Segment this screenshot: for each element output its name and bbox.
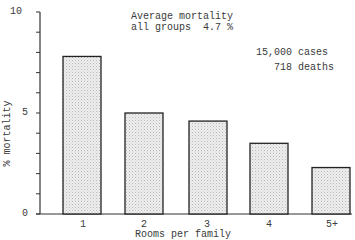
bar-3	[189, 121, 227, 214]
cases-note: 15,000 cases	[256, 47, 328, 58]
bar-2	[125, 113, 163, 214]
x-tick-label-1: 1	[80, 219, 86, 230]
bar-chart	[0, 0, 355, 240]
bar-1	[63, 56, 101, 214]
y-tick-label-5: 5	[22, 107, 28, 118]
x-tick-label-5plus: 5+	[326, 219, 338, 230]
bar-4	[250, 143, 288, 214]
bars	[63, 56, 350, 214]
deaths-note: 718 deaths	[274, 62, 334, 73]
x-tick-label-4: 4	[266, 219, 272, 230]
y-tick-label-0: 0	[22, 208, 28, 219]
annotation-line-1: Average mortality	[131, 11, 233, 22]
y-tick-label-10: 10	[10, 6, 22, 17]
annotation-line-2: all groups 4.7 %	[131, 22, 233, 33]
x-axis-label: Rooms per family	[135, 229, 231, 240]
bar-5plus	[312, 168, 350, 214]
y-axis-label: % mortality	[2, 100, 13, 166]
